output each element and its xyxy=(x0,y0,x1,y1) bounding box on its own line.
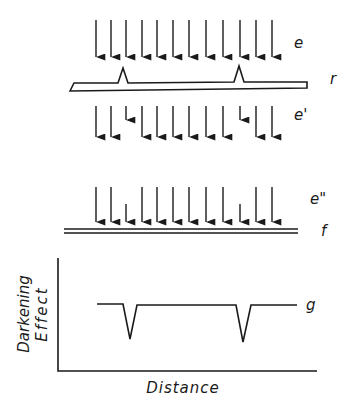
incident-beam-arrows xyxy=(96,20,272,57)
y-axis-label-line1: Darkening xyxy=(15,275,33,353)
film-beam-arrows xyxy=(96,187,272,222)
label-e: e xyxy=(294,34,303,52)
label-g: g xyxy=(306,296,316,314)
transmitted-beam-arrows xyxy=(96,106,272,137)
specimen-plate xyxy=(70,66,307,91)
darkening-profile-curve xyxy=(97,304,297,342)
label-e-prime: e' xyxy=(294,106,307,124)
diagram-canvas: e r e' e" f g Darkening Effect Distance xyxy=(0,0,354,406)
label-e-double-prime: e" xyxy=(310,190,326,208)
label-r: r xyxy=(330,70,337,88)
label-f: f xyxy=(321,222,329,240)
graph-axes xyxy=(58,258,317,371)
y-axis-label-line2: Effect xyxy=(33,286,51,341)
x-axis-label: Distance xyxy=(146,379,220,397)
